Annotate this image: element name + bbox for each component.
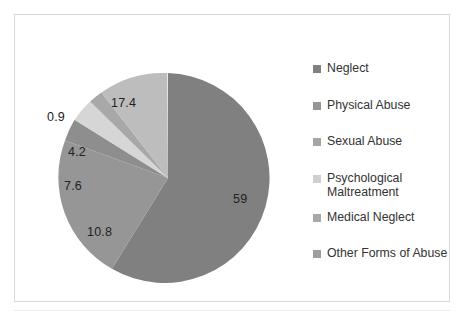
legend-swatch-icon: [313, 214, 321, 222]
legend-item-physical-abuse[interactable]: Physical Abuse: [313, 98, 461, 113]
pie-label-other-forms-of-abuse: 0.9: [47, 110, 65, 124]
pie-label-neglect: 59: [233, 192, 247, 206]
legend-label-physical-abuse: Physical Abuse: [327, 98, 410, 113]
legend-swatch-icon: [313, 138, 321, 146]
pie-label-psychological-maltreatment: 7.6: [64, 179, 82, 193]
pie-label-sexual-abuse: 10.8: [87, 225, 112, 239]
legend-item-medical-neglect[interactable]: Medical Neglect: [313, 210, 461, 225]
legend-item-sexual-abuse[interactable]: Sexual Abuse: [313, 134, 461, 149]
legend-item-other-forms-of-abuse[interactable]: Other Forms of Abuse: [313, 246, 461, 261]
legend-label-medical-neglect: Medical Neglect: [327, 210, 414, 225]
pie-label-medical-neglect: 4.2: [68, 145, 86, 159]
legend-swatch-icon: [313, 65, 321, 73]
page-divider: [14, 310, 450, 311]
legend-label-other-forms-of-abuse: Other Forms of Abuse: [327, 246, 447, 261]
legend-label-neglect: Neglect: [327, 61, 369, 76]
legend-item-psychological-maltreatment[interactable]: Psychological Maltreatment: [313, 171, 461, 200]
legend-label-sexual-abuse: Sexual Abuse: [327, 134, 402, 149]
legend-label-psychological-maltreatment: Psychological Maltreatment: [327, 171, 461, 200]
pie-chart: 59 17.4 10.8 7.6 4.2 0.9: [48, 59, 288, 297]
legend-swatch-icon: [313, 102, 321, 110]
legend-item-neglect[interactable]: Neglect: [313, 61, 461, 76]
pie-svg: [48, 59, 288, 297]
legend-swatch-icon: [313, 250, 321, 258]
chart-frame: 59 17.4 10.8 7.6 4.2 0.9 Neglect Physica…: [14, 14, 450, 302]
chart-legend: Neglect Physical Abuse Sexual Abuse Psyc…: [313, 61, 461, 283]
legend-swatch-icon: [313, 175, 321, 183]
pie-label-physical-abuse: 17.4: [111, 96, 136, 110]
